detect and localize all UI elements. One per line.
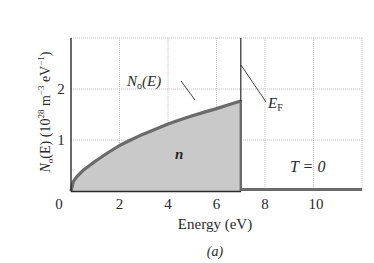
- curve-label-leader: [181, 81, 195, 100]
- x-tick-4: 4: [164, 196, 172, 212]
- ef-label-leader: [241, 65, 266, 102]
- temperature-label: T = 0: [290, 158, 325, 175]
- y-axis-label: No(E) (1028 m−3 eV−1): [36, 51, 55, 173]
- x-axis-label: Energy (eV): [178, 216, 252, 233]
- curve-label: No(E): [126, 73, 161, 91]
- x-tick-2: 2: [116, 196, 124, 212]
- y-tick-1: 1: [57, 132, 65, 148]
- density-of-states-chart: 0 2 4 6 8 10 1 2 Energy (eV) (a) No(E) (…: [0, 0, 374, 263]
- x-tick-6: 6: [213, 196, 221, 212]
- y-tick-2: 2: [57, 81, 65, 97]
- area-label: n: [175, 146, 183, 162]
- x-tick-8: 8: [261, 196, 269, 212]
- x-tick-0: 0: [55, 196, 63, 212]
- x-tick-10: 10: [309, 196, 324, 212]
- panel-label: (a): [207, 244, 224, 260]
- occupied-states-area: [71, 101, 241, 191]
- fermi-energy-label: EF: [267, 95, 283, 113]
